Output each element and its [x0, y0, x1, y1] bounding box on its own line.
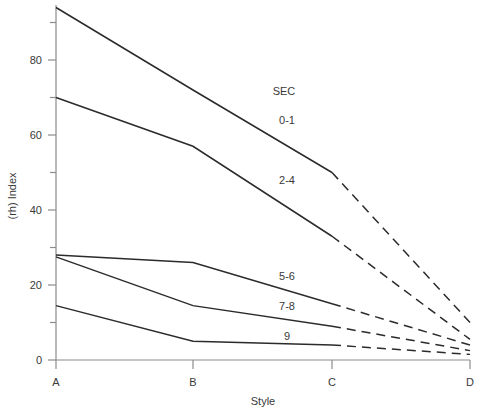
series-line-dashed-2-4 — [332, 236, 470, 339]
series-label-0-1: 0-1 — [279, 114, 295, 126]
y-axis-title: (rh) Index — [6, 172, 18, 220]
series-line-dashed-9 — [332, 345, 470, 354]
x-axis-title: Style — [251, 395, 275, 407]
series-label-2-4: 2-4 — [279, 174, 295, 186]
x-tick-label-c: C — [328, 376, 336, 388]
legend-title-sec: SEC — [273, 85, 296, 97]
line-chart-figure: 0 20 40 60 80 (rh) Index A B C D Style S… — [0, 0, 486, 412]
y-axis-minor-ticks — [50, 23, 56, 323]
y-tick-label-80: 80 — [30, 54, 42, 66]
series-label-7-8: 7-8 — [279, 300, 295, 312]
series-line-dashed-5-6 — [332, 304, 470, 345]
series-label-9: 9 — [284, 330, 290, 342]
x-tick-label-d: D — [466, 376, 474, 388]
y-axis-group: 0 20 40 60 80 (rh) Index — [6, 5, 56, 366]
series-labels-layer: 0-12-45-67-89 — [279, 114, 295, 342]
series-label-5-6: 5-6 — [279, 270, 295, 282]
y-tick-label-20: 20 — [30, 279, 42, 291]
x-axis-group: A B C D Style — [52, 360, 474, 407]
x-tick-label-a: A — [52, 376, 60, 388]
series-lines-layer — [56, 8, 470, 355]
y-axis-major-ticks — [48, 60, 56, 360]
series-line-dashed-0-1 — [332, 173, 470, 323]
x-tick-label-b: B — [189, 376, 196, 388]
y-tick-label-60: 60 — [30, 129, 42, 141]
chart-svg: 0 20 40 60 80 (rh) Index A B C D Style S… — [0, 0, 486, 412]
y-tick-label-40: 40 — [30, 204, 42, 216]
y-tick-label-0: 0 — [36, 354, 42, 366]
